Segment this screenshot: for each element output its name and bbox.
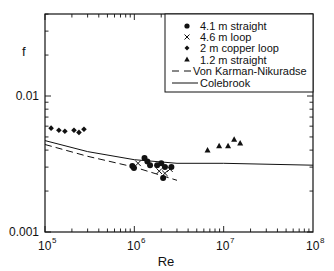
svg-text:10: 10 <box>216 239 230 253</box>
y-tick-label-0.001: 0.001 <box>9 225 39 239</box>
data-point <box>162 171 168 177</box>
x-tick-label-1e6: 10 6 <box>127 236 146 253</box>
friction-factor-chart: f 0.01 0.001 10 5 10 6 10 7 10 8 Re 4.1 … <box>0 0 334 271</box>
data-point <box>216 143 222 149</box>
y-axis-label: f <box>22 44 26 59</box>
svg-text:Von Karman-Nikuradse: Von Karman-Nikuradse <box>193 65 307 77</box>
svg-text:8: 8 <box>320 236 325 245</box>
data-point <box>225 143 231 149</box>
svg-text:10: 10 <box>306 239 320 253</box>
curves <box>45 141 313 181</box>
data-point <box>162 164 168 170</box>
y-tick-label-0.01: 0.01 <box>16 89 40 103</box>
svg-text:6: 6 <box>141 236 146 245</box>
data-point <box>147 162 153 168</box>
svg-text:7: 7 <box>230 236 235 245</box>
legend: 4.1 m straight 4.6 m loop 2 m copper loo… <box>165 14 313 92</box>
data-point <box>56 127 62 133</box>
data-point <box>48 125 54 131</box>
data-point <box>81 126 87 132</box>
svg-text:10: 10 <box>127 239 141 253</box>
svg-text:5: 5 <box>52 236 57 245</box>
svg-text:Colebrook: Colebrook <box>200 77 251 89</box>
x-tick-label-1e5: 10 5 <box>38 236 57 253</box>
x-axis-label: Re <box>158 254 175 269</box>
x-tick-label-1e7: 10 7 <box>216 236 235 253</box>
data-point <box>62 129 68 135</box>
data-point <box>156 168 162 174</box>
data-point <box>231 136 237 142</box>
data-point <box>71 127 77 133</box>
data-point <box>205 147 211 153</box>
colebrook-curve <box>45 141 313 166</box>
data-point <box>131 165 137 171</box>
svg-text:10: 10 <box>38 239 52 253</box>
data-point <box>135 160 141 166</box>
data-point <box>237 140 243 146</box>
circle-marker-icon <box>184 23 189 28</box>
x-tick-label-1e8: 10 8 <box>306 236 325 253</box>
legend-item-von-karman-nikuradse: Von Karman-Nikuradse <box>172 65 307 77</box>
svg-text:2 m copper loop: 2 m copper loop <box>200 42 279 54</box>
data-point <box>76 130 82 136</box>
